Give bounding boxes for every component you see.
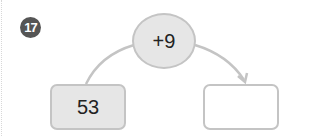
arc-operation-to-answer xyxy=(195,45,244,80)
answer-input-box[interactable] xyxy=(203,84,279,130)
start-value-box: 53 xyxy=(50,84,126,130)
operation-bubble: +9 xyxy=(132,13,196,69)
arc-start-to-operation xyxy=(86,45,134,84)
